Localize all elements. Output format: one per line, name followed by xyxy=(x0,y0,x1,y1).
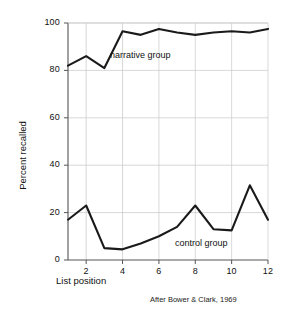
y-tick-label: 60 xyxy=(36,112,60,122)
x-axis-title: List position xyxy=(56,275,106,286)
y-tick-label: 40 xyxy=(36,159,60,169)
data-series-lines xyxy=(68,29,268,249)
y-tick-label: 100 xyxy=(36,17,60,27)
source-attribution: After Bower & Clark, 1969 xyxy=(150,295,237,304)
series-label-control-group: control group xyxy=(175,238,228,248)
series-label-narrative-group: narrative group xyxy=(110,50,171,60)
x-tick-label: 8 xyxy=(187,266,203,276)
x-tick-label: 10 xyxy=(224,266,240,276)
y-tick-label: 80 xyxy=(36,64,60,74)
series-line-narrative-group xyxy=(68,29,268,68)
x-tick-label: 4 xyxy=(115,266,131,276)
x-tick-label: 6 xyxy=(151,266,167,276)
y-tick-label: 0 xyxy=(36,254,60,264)
chart-figure: 020406080100 24681012 Percent recalled L… xyxy=(0,0,285,310)
x-tick-label: 12 xyxy=(260,266,276,276)
y-tick-label: 20 xyxy=(36,207,60,217)
series-line-control-group xyxy=(68,185,268,249)
y-axis-title: Percent recalled xyxy=(17,96,28,216)
